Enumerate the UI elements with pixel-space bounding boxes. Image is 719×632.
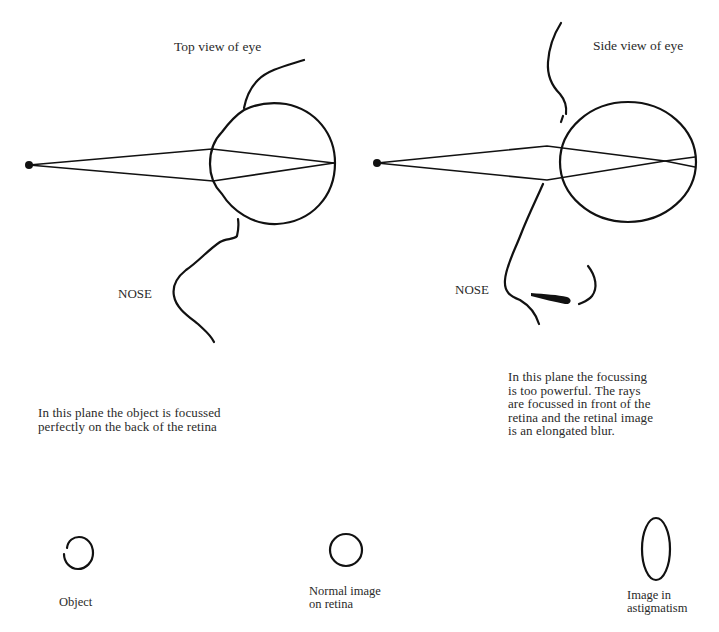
brow-outline [244,60,304,108]
legend-astigmatism-label: Image in astigmatism [627,589,687,615]
astigmatism-ellipse [642,518,670,580]
side-view-nose-label: NOSE [455,283,489,297]
ray-upper [29,149,334,165]
top-view-panel [25,60,335,342]
normal-image-circle [330,534,362,566]
legend-normal-image-label: Normal image on retina [309,585,381,611]
nostril [531,293,571,304]
cheek-outline [579,266,595,304]
top-view-nose-label: NOSE [118,287,152,301]
nose-outline [174,219,239,342]
side-view-title: Side view of eye [593,39,683,53]
top-view-description: In this plane the object is focussed per… [38,406,221,433]
object-circle [64,537,93,569]
ray-lower [29,163,334,181]
forehead-outline [548,23,566,114]
diagram-artwork [0,0,719,632]
forehead-tick [561,116,563,122]
eyeball-outline [560,102,696,222]
ray-lower [377,157,695,180]
top-view-title: Top view of eye [174,40,261,54]
legend-object-label: Object [59,596,92,609]
eyeball-outline [210,103,335,224]
side-view-panel [373,23,696,324]
side-view-description: In this plane the focussing is too power… [508,370,653,438]
nose-outline [505,184,543,324]
legend-shapes [64,518,670,580]
